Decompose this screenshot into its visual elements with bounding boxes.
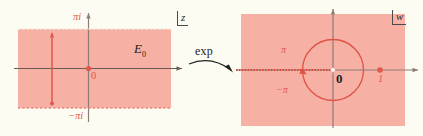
w-real-axis-arrowhead: [413, 68, 419, 72]
w-plane-corner-tag: w: [392, 10, 406, 25]
w-imaginary-axis-arrowhead: [331, 9, 335, 15]
w-plane-graphics: [0, 0, 423, 136]
w-lower-angle-label: −π: [276, 85, 288, 95]
exp-map-figure: πi −πi 0 E0 z exp π −π 0 1 w: [0, 0, 423, 136]
w-origin-label: 0: [336, 72, 343, 85]
w-unit-point-label: 1: [378, 74, 383, 85]
w-unit-point-dot: [377, 67, 383, 73]
w-upper-angle-label: π: [281, 45, 286, 55]
w-origin-dot: [331, 68, 336, 73]
